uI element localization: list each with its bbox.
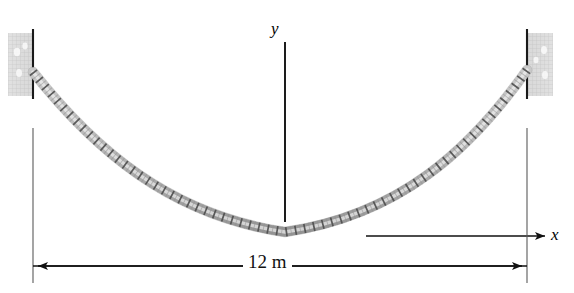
x-axis-label: x	[551, 226, 559, 243]
support-left	[8, 29, 34, 99]
support-left-highlight-a	[14, 48, 20, 56]
cable-diagram-figure: y x 12 m	[0, 0, 574, 293]
support-left-highlight-b	[22, 43, 27, 50]
y-axis-label: y	[271, 20, 279, 37]
support-left-hatch	[8, 33, 34, 96]
diagram-canvas	[0, 0, 574, 293]
dimension-label: 12 m	[243, 252, 292, 273]
support-left-highlight-c	[16, 69, 22, 77]
support-right-highlight-c	[542, 71, 548, 79]
support-right-hatch	[527, 33, 553, 96]
cable-rope	[33, 70, 527, 232]
support-right	[527, 29, 553, 99]
support-right-highlight-a	[541, 46, 547, 54]
support-right-highlight-b	[534, 57, 539, 64]
